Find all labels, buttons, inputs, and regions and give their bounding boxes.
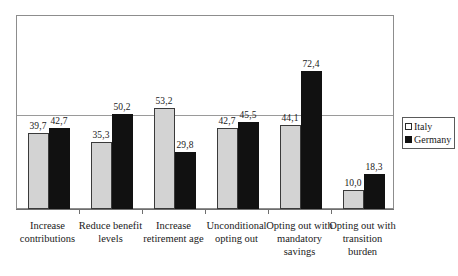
category-label-line: opting out bbox=[201, 232, 272, 245]
bar-italy-4 bbox=[280, 125, 301, 209]
bar-italy-3 bbox=[217, 128, 238, 209]
category-label-0: Increasecontributions bbox=[12, 219, 83, 245]
category-label-1: Reduce benefitlevels bbox=[75, 219, 146, 245]
data-label-germany-5: 18,3 bbox=[357, 162, 392, 172]
legend-item-italy[interactable]: Italy bbox=[405, 120, 451, 133]
legend-label-italy: Italy bbox=[414, 121, 432, 132]
x-tick-4 bbox=[331, 209, 332, 214]
bar-germany-0 bbox=[49, 128, 70, 209]
bar-italy-1 bbox=[91, 142, 112, 209]
category-label-3: Unconditionalopting out bbox=[201, 219, 272, 245]
bar-chart: IncreasecontributionsReduce benefitlevel… bbox=[0, 0, 458, 276]
category-label-line: Increase bbox=[12, 219, 83, 232]
category-label-line: contributions bbox=[12, 232, 83, 245]
bar-italy-5 bbox=[343, 190, 364, 209]
data-label-italy-5: 10,0 bbox=[336, 178, 371, 188]
bar-italy-2 bbox=[154, 108, 175, 209]
bar-germany-4 bbox=[301, 71, 322, 209]
data-label-germany-2: 29,8 bbox=[168, 140, 203, 150]
x-tick-1 bbox=[142, 209, 143, 214]
category-label-4: Opting out withmandatorysavings bbox=[264, 219, 335, 258]
category-label-5: Opting out withtransition burden bbox=[327, 219, 398, 258]
legend-item-germany[interactable]: Germany bbox=[405, 133, 451, 146]
category-label-line: mandatory bbox=[264, 232, 335, 245]
category-label-line: transition burden bbox=[327, 232, 398, 258]
category-label-line: Opting out with bbox=[264, 219, 335, 232]
bar-germany-1 bbox=[112, 114, 133, 209]
x-tick-2 bbox=[205, 209, 206, 214]
bar-germany-2 bbox=[175, 152, 196, 209]
legend-swatch-germany-icon bbox=[405, 136, 412, 143]
category-label-2: Increaseretirement age bbox=[138, 219, 209, 245]
x-tick-3 bbox=[268, 209, 269, 214]
data-label-germany-1: 50,2 bbox=[105, 102, 140, 112]
data-label-italy-1: 35,3 bbox=[84, 130, 119, 140]
x-tick-0 bbox=[79, 209, 80, 214]
bar-italy-0 bbox=[28, 133, 49, 209]
category-label-line: Increase bbox=[138, 219, 209, 232]
category-label-line: retirement age bbox=[138, 232, 209, 245]
category-label-line: levels bbox=[75, 232, 146, 245]
legend-swatch-italy-icon bbox=[405, 123, 412, 130]
data-label-germany-3: 45,5 bbox=[231, 110, 266, 120]
category-label-line: savings bbox=[264, 245, 335, 258]
category-label-line: Opting out with bbox=[327, 219, 398, 232]
legend-label-germany: Germany bbox=[414, 134, 451, 145]
data-label-germany-4: 72,4 bbox=[294, 59, 329, 69]
data-label-italy-4: 44,1 bbox=[273, 113, 308, 123]
data-label-italy-2: 53,2 bbox=[147, 96, 182, 106]
data-label-germany-0: 42,7 bbox=[42, 116, 77, 126]
bar-germany-3 bbox=[238, 122, 259, 209]
category-label-line: Unconditional bbox=[201, 219, 272, 232]
category-label-line: Reduce benefit bbox=[75, 219, 146, 232]
chart-legend: Italy Germany bbox=[402, 117, 455, 149]
